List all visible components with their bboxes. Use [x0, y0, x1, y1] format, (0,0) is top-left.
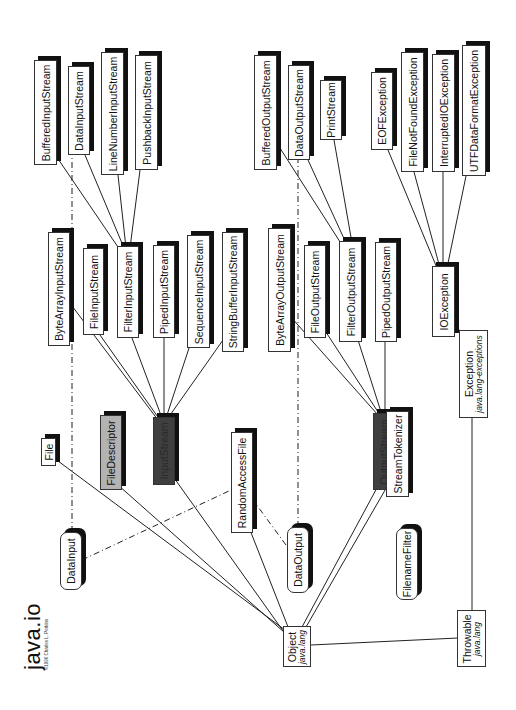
node-label: FileNotFoundException [406, 57, 418, 166]
node-label: InterruptedIOException [437, 59, 449, 167]
node-label: PushbackInputStream [140, 61, 152, 164]
node-eof-exception[interactable]: EOFException [371, 72, 393, 150]
node-label: PrintStream [325, 82, 337, 137]
node-label: Throwable java.lang [461, 614, 483, 663]
title-text: java.io [22, 603, 44, 670]
node-label: DataOutputStream [293, 69, 305, 157]
node-label: FilterInputStream [122, 252, 134, 333]
node-exception[interactable]: Exception java.lang-exceptions [459, 330, 488, 418]
node-random-access-file[interactable]: RandomAccessFile [231, 432, 253, 533]
node-filter-input-stream[interactable]: FilterInputStream [117, 246, 139, 338]
diagram-title: java.io ©1996 Charles L. Perkins [22, 603, 49, 670]
node-label: ByteArrayInputStream [53, 237, 65, 340]
node-label: InputStream [158, 422, 170, 479]
node-name: Exception [463, 351, 475, 397]
node-package: java.lang-exceptions [475, 335, 485, 413]
node-label: LineNumberInputStream [106, 56, 118, 170]
node-label: UTFDataFormatException [468, 50, 480, 172]
node-buffered-output-stream[interactable]: BufferedOutputStream [254, 55, 277, 170]
node-name: Throwable [461, 614, 473, 663]
node-label: PipedInputStream [158, 249, 170, 333]
node-label: EOFException [376, 77, 388, 145]
node-line-number-input-stream[interactable]: LineNumberInputStream [101, 52, 124, 175]
node-label: StreamTokenizer [391, 415, 403, 494]
node-label: FilterOutputStream [344, 247, 356, 336]
node-file-not-found-exception[interactable]: FileNotFoundException [401, 52, 424, 172]
node-input-stream[interactable]: InputStream [153, 417, 175, 485]
node-data-input-stream[interactable]: DataInputStream [68, 66, 90, 155]
node-sequence-input-stream[interactable]: SequenceInputStream [187, 235, 210, 348]
node-object[interactable]: Object java.lang [283, 626, 311, 667]
node-package: java.lang [298, 629, 308, 663]
node-data-input-interface[interactable]: DataInput [60, 532, 82, 590]
node-label: FilenameFilter [401, 531, 413, 598]
node-label: Object java.lang [286, 629, 308, 663]
node-label: FileDescriptor [105, 420, 117, 485]
node-label: File [42, 444, 54, 461]
node-piped-input-stream[interactable]: PipedInputStream [153, 245, 175, 338]
node-file-output-stream[interactable]: FileOutputStream [304, 245, 326, 338]
node-stream-tokenizer[interactable]: StreamTokenizer [386, 411, 409, 497]
node-file-input-stream[interactable]: FileInputStream [83, 248, 104, 335]
node-label: BufferedOutputStream [259, 60, 271, 165]
node-label: DataInputStream [73, 71, 85, 150]
node-utf-data-format-exception[interactable]: UTFDataFormatException [462, 45, 486, 176]
node-label: DataOutput [292, 533, 304, 587]
node-data-output-stream[interactable]: DataOutputStream [288, 65, 310, 160]
node-throwable[interactable]: Throwable java.lang [457, 610, 486, 667]
node-data-output-interface[interactable]: DataOutput [287, 527, 309, 593]
node-piped-output-stream[interactable]: PipedOutputStream [375, 242, 397, 342]
node-label: FileOutputStream [309, 250, 321, 332]
node-label: FileInputStream [87, 254, 99, 328]
node-byte-array-input-stream[interactable]: ByteArrayInputStream [48, 232, 70, 346]
node-interrupted-io-exception[interactable]: InterruptedIOException [432, 54, 455, 172]
node-io-exception[interactable]: IOException [432, 266, 455, 337]
node-label: DataInput [65, 538, 77, 584]
node-label: PipedOutputStream [380, 246, 392, 338]
node-label: ByteArrayOutputStream [273, 234, 285, 345]
node-label: RandomAccessFile [236, 437, 248, 527]
node-label: StringBufferInputStream [227, 236, 239, 348]
node-label: SequenceInputStream [192, 239, 204, 344]
node-filename-filter-interface[interactable]: FilenameFilter [396, 528, 418, 600]
node-pushback-input-stream[interactable]: PushbackInputStream [135, 55, 158, 170]
node-file-descriptor[interactable]: FileDescriptor [100, 415, 122, 490]
node-string-buffer-input-stream[interactable]: StringBufferInputStream [222, 232, 244, 352]
node-file[interactable]: File [41, 438, 56, 466]
node-filter-output-stream[interactable]: FilterOutputStream [339, 241, 362, 342]
node-package: java.lang [473, 614, 483, 663]
node-buffered-input-stream[interactable]: BufferedInputStream [34, 60, 57, 165]
node-byte-array-output-stream[interactable]: ByteArrayOutputStream [268, 228, 291, 352]
node-print-stream[interactable]: PrintStream [320, 80, 342, 140]
node-label: IOException [437, 273, 449, 330]
node-label: Exception java.lang-exceptions [463, 335, 485, 413]
node-label: BufferedInputStream [39, 64, 51, 161]
